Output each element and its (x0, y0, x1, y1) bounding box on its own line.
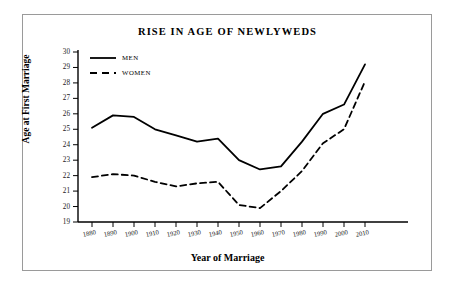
y-tick-label: 29 (50, 63, 70, 71)
data-series-group (92, 64, 365, 208)
y-tick-label: 20 (50, 203, 70, 211)
legend-label-men: MEN (122, 54, 139, 61)
chart-page: RISE IN AGE OF NEWLYWEDS Age at First Ma… (0, 0, 455, 287)
y-tick-label: 27 (50, 94, 70, 102)
y-tick-label: 23 (50, 156, 70, 164)
y-tick-label: 30 (50, 48, 70, 56)
legend-label-women: WOMEN (122, 69, 151, 76)
y-tick-label: 22 (50, 172, 70, 180)
y-tick-label: 26 (50, 110, 70, 118)
y-tick-label: 24 (50, 141, 70, 149)
y-tick-label: 25 (50, 125, 70, 133)
y-tick-label: 19 (50, 218, 70, 226)
x-axis-ticks (92, 222, 365, 227)
series-line-men (92, 64, 365, 169)
y-tick-label: 28 (50, 79, 70, 87)
legend-swatches (90, 58, 116, 73)
series-line-women (92, 81, 365, 208)
y-axis-ticks (73, 52, 78, 222)
y-tick-label: 21 (50, 187, 70, 195)
